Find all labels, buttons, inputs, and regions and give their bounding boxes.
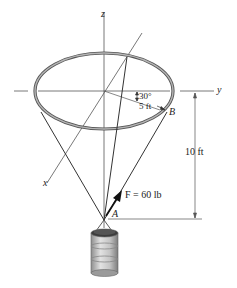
barrel-icon bbox=[91, 229, 118, 277]
x-axis-label: x bbox=[43, 178, 47, 188]
point-b-label: B bbox=[169, 107, 175, 117]
z-axis-label: z bbox=[101, 9, 105, 19]
radius-label: 5 ft bbox=[139, 102, 151, 111]
angle-label: 30° bbox=[139, 92, 152, 101]
height-label: 10 ft bbox=[185, 147, 204, 157]
force-label: F = 60 lb bbox=[125, 190, 161, 200]
point-a-label: A bbox=[112, 209, 118, 219]
y-axis-label: y bbox=[217, 85, 221, 95]
diagram-canvas bbox=[0, 0, 237, 288]
